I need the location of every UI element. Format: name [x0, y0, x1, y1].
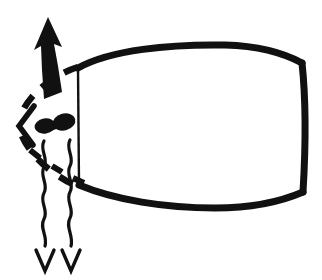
line-drawing-canvas — [0, 0, 322, 280]
barrel-left-seam — [78, 68, 79, 185]
barrel-right-edge — [302, 63, 305, 192]
figure-root: Diagram of a barrel-shaped body with a d… — [0, 0, 322, 280]
